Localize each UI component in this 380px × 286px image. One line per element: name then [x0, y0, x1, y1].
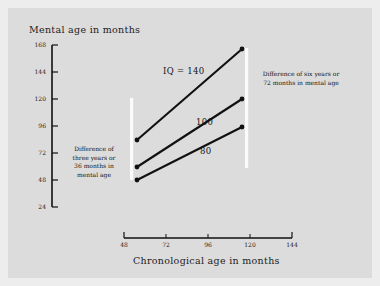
y-axis-ticks — [52, 45, 58, 207]
y-axis-title: Mental age in months — [29, 24, 140, 35]
x-tick-label-96: 96 — [199, 241, 217, 248]
y-tick-label-96: 96 — [30, 122, 46, 129]
y-tick-label-24: 24 — [30, 203, 46, 210]
y-tick-label-72: 72 — [30, 149, 46, 156]
y-tick-label-168: 168 — [30, 41, 46, 48]
x-axis-ticks — [124, 232, 292, 238]
series-label-iq140: IQ = 140 — [163, 66, 204, 76]
x-tick-label-48: 48 — [115, 241, 133, 248]
x-tick-label-72: 72 — [157, 241, 175, 248]
chart-figure: Mental age in months Chronological age i… — [0, 0, 380, 286]
y-tick-label-120: 120 — [30, 95, 46, 102]
series-label-iq80: 80 — [200, 146, 211, 156]
y-tick-label-144: 144 — [30, 68, 46, 75]
annotation-right-difference: Difference of six years or 72 months in … — [249, 70, 353, 87]
x-tick-label-120: 120 — [241, 241, 259, 248]
right-bracket-bar — [245, 48, 248, 168]
x-axis-title: Chronological age in months — [133, 255, 280, 266]
y-tick-label-48: 48 — [30, 176, 46, 183]
left-bracket-bar — [130, 98, 133, 180]
x-tick-label-144: 144 — [283, 241, 301, 248]
annotation-left-difference: Difference of three years or 36 months i… — [63, 145, 125, 179]
chart-canvas — [0, 0, 380, 286]
series-line-iq140 — [135, 47, 245, 143]
series-label-iq100: 100 — [196, 117, 213, 127]
